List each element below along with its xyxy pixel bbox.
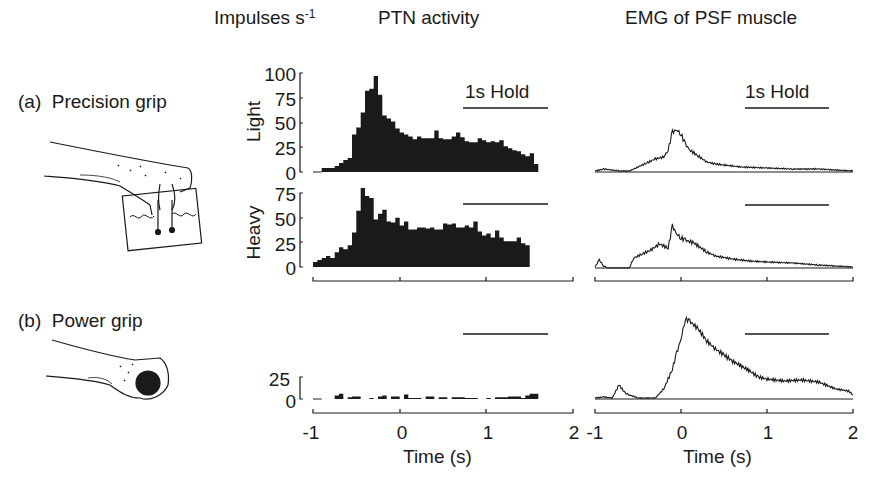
yaxis-light bbox=[300, 73, 303, 172]
precision-grip-hand-icon bbox=[44, 142, 202, 251]
xaxis-emg-top bbox=[595, 277, 853, 281]
emg-trace bbox=[595, 317, 853, 398]
figure-plots bbox=[0, 0, 869, 481]
power-grip-hand-icon bbox=[46, 340, 169, 399]
yaxis-heavy bbox=[300, 193, 303, 267]
emg-trace bbox=[595, 224, 853, 268]
xaxis-ptn-top bbox=[313, 277, 573, 281]
ptn-histogram bbox=[313, 188, 530, 267]
xaxis-emg-bottom bbox=[595, 409, 853, 413]
ptn-histogram bbox=[322, 76, 539, 172]
xaxis-ptn-bottom bbox=[313, 409, 573, 413]
emg-trace bbox=[595, 130, 853, 172]
ptn-histogram bbox=[322, 394, 539, 399]
yaxis-power bbox=[300, 377, 303, 399]
